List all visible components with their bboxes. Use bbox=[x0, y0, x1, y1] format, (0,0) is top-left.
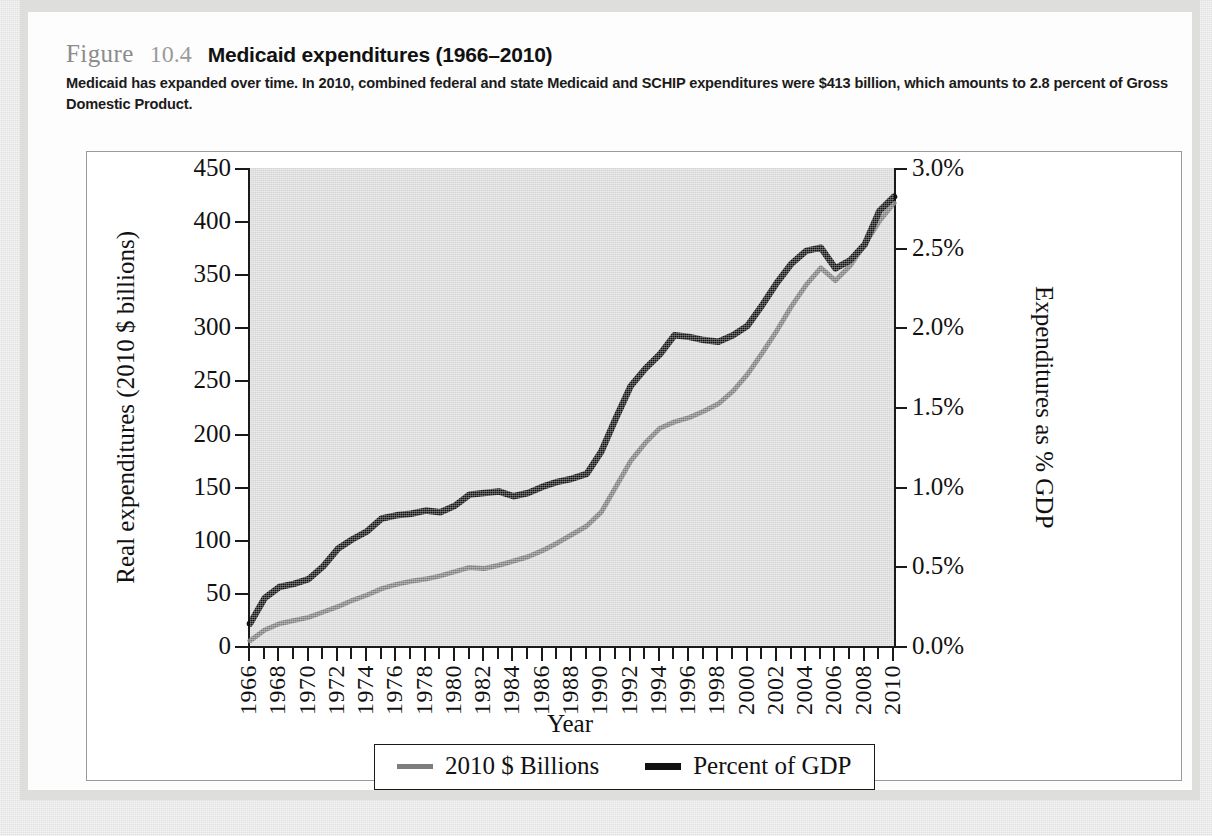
right-tick-label: 2.5% bbox=[912, 234, 964, 262]
x-tick-mark bbox=[819, 648, 821, 659]
left-tick-mark bbox=[235, 168, 248, 170]
x-tick-label: 1968 bbox=[264, 665, 291, 715]
x-tick-mark bbox=[497, 648, 499, 659]
x-tick-mark bbox=[424, 648, 426, 661]
legend-item-2010-dollars: 2010 $ Billions bbox=[397, 752, 599, 780]
legend-label-2010-dollars: 2010 $ Billions bbox=[445, 752, 599, 780]
x-tick-mark bbox=[365, 648, 367, 661]
left-tick-mark bbox=[235, 646, 248, 648]
chart-frame: Real expenditures (2010 $ billions) 0501… bbox=[86, 151, 1182, 781]
left-tick-mark bbox=[235, 380, 248, 382]
figure-panel: Figure 10.4 Medicaid expenditures (1966–… bbox=[28, 12, 1192, 790]
x-tick-label: 1976 bbox=[381, 665, 408, 715]
x-tick-mark bbox=[877, 648, 879, 659]
chart-lines bbox=[250, 168, 894, 646]
x-tick-label: 1990 bbox=[586, 665, 613, 715]
x-tick-mark bbox=[409, 648, 411, 659]
left-tick-label: 200 bbox=[194, 420, 232, 448]
x-tick-mark bbox=[482, 648, 484, 661]
x-tick-label: 2006 bbox=[820, 665, 847, 715]
x-tick-mark bbox=[321, 648, 323, 659]
x-tick-mark bbox=[570, 648, 572, 661]
figure-description: Medicaid has expanded over time. In 2010… bbox=[66, 73, 1201, 114]
x-tick-mark bbox=[336, 648, 338, 661]
left-tick-label: 50 bbox=[206, 579, 231, 607]
right-tick-label: 2.0% bbox=[912, 313, 964, 341]
left-tick-label: 0 bbox=[219, 632, 232, 660]
left-tick-mark bbox=[235, 327, 248, 329]
x-axis-title: Year bbox=[248, 710, 892, 738]
x-tick-mark bbox=[511, 648, 513, 661]
x-tick-mark bbox=[629, 648, 631, 661]
right-axis-ticks: 0.0%0.5%1.0%1.5%2.0%2.5%3.0% bbox=[894, 168, 1034, 646]
x-tick-label: 2008 bbox=[850, 665, 877, 715]
legend-item-percent-gdp: Percent of GDP bbox=[645, 752, 851, 780]
right-tick-mark bbox=[894, 566, 907, 568]
x-tick-mark bbox=[775, 648, 777, 661]
left-tick-label: 450 bbox=[194, 154, 232, 182]
legend-swatch-gray-line-icon bbox=[397, 764, 433, 769]
left-tick-label: 400 bbox=[194, 207, 232, 235]
legend-label-percent-gdp: Percent of GDP bbox=[693, 752, 851, 780]
x-tick-label: 1978 bbox=[411, 665, 438, 715]
x-tick-label: 1974 bbox=[352, 665, 379, 715]
x-tick-mark bbox=[672, 648, 674, 659]
x-tick-mark bbox=[731, 648, 733, 659]
x-tick-label: 1992 bbox=[616, 665, 643, 715]
right-tick-mark bbox=[894, 168, 907, 170]
legend-swatch-black-line-icon bbox=[645, 763, 681, 770]
x-tick-mark bbox=[790, 648, 792, 659]
x-tick-mark bbox=[380, 648, 382, 659]
x-tick-mark bbox=[863, 648, 865, 661]
left-tick-label: 100 bbox=[194, 526, 232, 554]
series-line-percent-gdp bbox=[250, 197, 894, 624]
x-tick-mark bbox=[599, 648, 601, 661]
x-tick-mark bbox=[248, 648, 250, 661]
x-tick-label: 1986 bbox=[528, 665, 555, 715]
x-tick-label: 1966 bbox=[235, 665, 262, 715]
x-tick-label: 2000 bbox=[733, 665, 760, 715]
x-tick-mark bbox=[292, 648, 294, 659]
figure-title: Medicaid expenditures (1966–2010) bbox=[208, 43, 553, 67]
x-tick-mark bbox=[468, 648, 470, 659]
x-tick-label: 1972 bbox=[323, 665, 350, 715]
right-tick-mark bbox=[894, 487, 907, 489]
left-tick-mark bbox=[235, 274, 248, 276]
right-tick-label: 0.0% bbox=[912, 632, 964, 660]
right-tick-label: 1.5% bbox=[912, 393, 964, 421]
x-tick-label: 1996 bbox=[674, 665, 701, 715]
x-tick-label: 1994 bbox=[645, 665, 672, 715]
x-tick-mark bbox=[555, 648, 557, 659]
right-tick-mark bbox=[894, 327, 907, 329]
x-tick-mark bbox=[541, 648, 543, 661]
x-tick-mark bbox=[716, 648, 718, 661]
x-tick-label: 1970 bbox=[294, 665, 321, 715]
x-tick-mark bbox=[892, 648, 894, 661]
x-tick-mark bbox=[804, 648, 806, 661]
right-tick-mark bbox=[894, 646, 907, 648]
figure-caption: Figure 10.4 Medicaid expenditures (1966–… bbox=[66, 40, 1186, 114]
x-tick-mark bbox=[394, 648, 396, 661]
page-background: Figure 10.4 Medicaid expenditures (1966–… bbox=[0, 0, 1212, 836]
right-tick-label: 3.0% bbox=[912, 154, 964, 182]
left-tick-mark bbox=[235, 593, 248, 595]
x-tick-mark bbox=[760, 648, 762, 659]
x-tick-mark bbox=[614, 648, 616, 659]
x-tick-mark bbox=[350, 648, 352, 659]
left-tick-mark bbox=[235, 487, 248, 489]
right-axis-title-text: Expenditures as % GDP bbox=[1030, 286, 1058, 528]
x-tick-mark bbox=[438, 648, 440, 659]
x-tick-mark bbox=[687, 648, 689, 661]
left-tick-label: 250 bbox=[194, 366, 232, 394]
x-tick-mark bbox=[263, 648, 265, 659]
chart-inner: Real expenditures (2010 $ billions) 0501… bbox=[87, 152, 1181, 780]
x-tick-label: 1982 bbox=[469, 665, 496, 715]
left-tick-label: 350 bbox=[194, 260, 232, 288]
right-tick-mark bbox=[894, 248, 907, 250]
left-tick-mark bbox=[235, 434, 248, 436]
x-tick-mark bbox=[702, 648, 704, 659]
series-line-2010-dollars bbox=[250, 203, 894, 641]
x-tick-mark bbox=[277, 648, 279, 661]
left-tick-mark bbox=[235, 540, 248, 542]
x-tick-label: 2004 bbox=[791, 665, 818, 715]
